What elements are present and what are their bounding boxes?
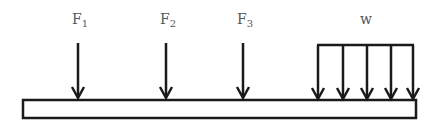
point-load-f3: F3 [237, 11, 253, 98]
beam [23, 100, 416, 118]
point-load-f2: F2 [160, 11, 176, 98]
load-label-f1: F1 [72, 11, 88, 29]
point-load-f1: F1 [72, 11, 88, 98]
load-label-f2: F2 [160, 11, 176, 29]
beam-load-diagram: F1 F2 F3 w [0, 0, 440, 127]
load-label-w: w [360, 11, 372, 27]
load-label-f3: F3 [237, 11, 253, 29]
distributed-load-w: w [312, 11, 419, 99]
